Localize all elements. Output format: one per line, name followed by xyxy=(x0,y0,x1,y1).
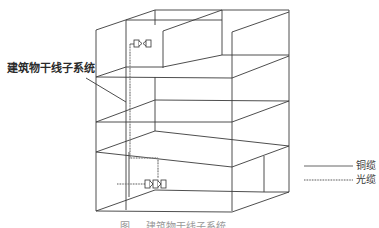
legend-copper-label: 铜缆 xyxy=(356,161,376,171)
building-backbone-diagram xyxy=(0,0,379,228)
backbone-fiber-cable xyxy=(117,44,158,184)
building-structure xyxy=(96,10,289,212)
lower-patch-panel-icon xyxy=(145,180,166,188)
figure-caption: 图 ... 建筑物干线子系统 xyxy=(120,222,226,228)
upper-patch-panel-icon xyxy=(130,40,151,47)
label-leader-line xyxy=(86,78,126,102)
backbone-subsystem-label: 建筑物干线子系统 xyxy=(7,63,95,74)
legend-fiber-label: 光缆 xyxy=(356,175,376,185)
